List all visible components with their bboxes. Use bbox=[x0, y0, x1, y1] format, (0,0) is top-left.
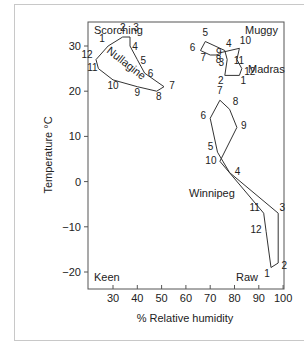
month-label: 4 bbox=[226, 38, 232, 49]
month-label: 10 bbox=[107, 80, 119, 91]
x-tick-label: 30 bbox=[107, 292, 119, 304]
month-label: 6 bbox=[190, 42, 196, 53]
month-label: 5 bbox=[208, 141, 214, 152]
series-label-winnipeg: Winnipeg bbox=[189, 187, 235, 199]
y-tick-label: 20 bbox=[69, 85, 81, 97]
month-label: 11 bbox=[87, 62, 98, 73]
corner-label-bottom-right: Raw bbox=[236, 271, 258, 283]
month-label: 5 bbox=[141, 55, 147, 66]
month-label: 4 bbox=[235, 166, 241, 177]
corner-label-top-right: Muggy bbox=[245, 24, 279, 36]
corner-label-top-left: Scorching bbox=[94, 24, 143, 36]
axes: 304050607080901003020100−10−20 bbox=[62, 40, 292, 304]
month-label: 12 bbox=[251, 224, 263, 235]
month-label: 11 bbox=[234, 55, 245, 66]
y-axis-label: Temperature °C bbox=[42, 116, 54, 193]
y-tick-label: 0 bbox=[75, 176, 81, 188]
month-label: 4 bbox=[132, 41, 138, 52]
y-tick-label: −10 bbox=[62, 221, 81, 233]
month-label: 1 bbox=[241, 75, 247, 86]
month-label: 9 bbox=[241, 120, 247, 131]
x-tick-label: 60 bbox=[180, 292, 192, 304]
x-tick-label: 80 bbox=[228, 292, 240, 304]
x-tick-label: 70 bbox=[204, 292, 216, 304]
month-label: 9 bbox=[135, 87, 141, 98]
month-label: 7 bbox=[200, 52, 206, 63]
y-tick-label: 10 bbox=[69, 130, 81, 142]
x-axis-label: % Relative humidity bbox=[137, 312, 234, 324]
month-label: 10 bbox=[205, 155, 217, 166]
month-label: 2 bbox=[281, 260, 287, 271]
month-label: 5 bbox=[203, 27, 209, 38]
series-layer: 1234567891011121234567891011121234567891… bbox=[81, 22, 287, 279]
month-label: 1 bbox=[264, 268, 270, 279]
x-tick-label: 40 bbox=[131, 292, 143, 304]
x-tick-label: 50 bbox=[155, 292, 167, 304]
month-label: 8 bbox=[233, 96, 239, 107]
x-tick-label: 100 bbox=[274, 292, 292, 304]
chart: 304050607080901003020100−10−20 123456789… bbox=[0, 0, 304, 345]
month-label: 9 bbox=[216, 47, 222, 58]
series-label-madras: Madras bbox=[248, 63, 285, 75]
y-tick-label: 30 bbox=[69, 40, 81, 52]
y-tick-label: −20 bbox=[62, 266, 81, 278]
corner-label-bottom-left: Keen bbox=[94, 271, 120, 283]
month-label: 8 bbox=[156, 91, 162, 102]
month-label: 12 bbox=[81, 49, 93, 60]
month-label: 6 bbox=[148, 68, 154, 79]
month-label: 3 bbox=[279, 202, 285, 213]
month-label: 6 bbox=[200, 110, 206, 121]
month-label: 7 bbox=[217, 85, 223, 96]
month-label: 11 bbox=[250, 202, 261, 213]
x-tick-label: 90 bbox=[253, 292, 265, 304]
month-label: 10 bbox=[240, 35, 252, 46]
month-label: 7 bbox=[169, 80, 175, 91]
